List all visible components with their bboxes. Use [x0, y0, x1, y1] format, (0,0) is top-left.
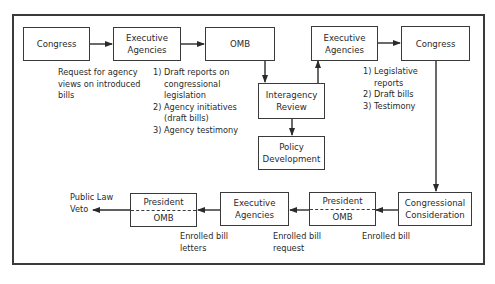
omb-label: OMB — [310, 210, 375, 226]
box-president-omb-right: President OMB — [309, 192, 376, 226]
box-congress-top-right: Congress — [401, 26, 470, 61]
box-omb-top: OMB — [205, 27, 275, 61]
box-policy-development: PolicyDevelopment — [258, 136, 325, 170]
note-enrolled-bill-request: Enrolled bill request — [273, 231, 321, 254]
box-executive-agencies-top: ExecutiveAgencies — [113, 27, 181, 61]
note-request-for-views: Request for agency views on introduced b… — [58, 67, 141, 102]
note-enrolled-bill: Enrolled bill — [362, 231, 410, 243]
note-executive-right-outputs: 1) Legislative reports 2) Draft bills 3)… — [363, 66, 418, 112]
box-executive-agencies-top-right: ExecutiveAgencies — [311, 26, 378, 61]
box-executive-agencies-bottom: ExecutiveAgencies — [220, 192, 289, 226]
president-label: President — [131, 194, 196, 211]
president-label: President — [310, 193, 375, 210]
box-interagency-review: InteragencyReview — [258, 83, 325, 119]
box-president-omb-left: President OMB — [130, 193, 197, 227]
note-outcome: Public Law Veto — [70, 192, 113, 215]
note-executive-outputs: 1) Draft reports on congressional legisl… — [153, 67, 238, 137]
box-congressional-consideration: CongressionalConsideration — [398, 192, 472, 226]
box-congress-top: Congress — [23, 27, 90, 61]
omb-label: OMB — [131, 211, 196, 227]
note-enrolled-bill-letters: Enrolled bill letters — [180, 231, 228, 254]
